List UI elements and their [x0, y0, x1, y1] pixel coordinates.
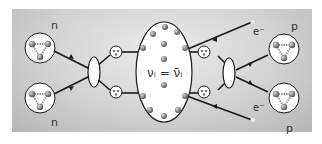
label-central-equation: νᵢ = ν̄ᵢ	[147, 67, 182, 79]
neutron-bottom	[25, 83, 55, 113]
proton-top	[269, 34, 299, 64]
left-vertex	[88, 57, 100, 87]
proton-bottom	[269, 83, 299, 113]
label-proton-top: p	[291, 21, 298, 32]
label-neutron-top: n	[51, 20, 58, 31]
label-electron-top: e⁻	[253, 27, 264, 37]
right-vertex	[223, 58, 235, 88]
label-neutron-bottom: n	[51, 117, 58, 128]
label-proton-bottom: p	[286, 123, 293, 134]
neutron-top	[25, 33, 55, 63]
label-electron-bottom: e⁻	[253, 103, 264, 113]
